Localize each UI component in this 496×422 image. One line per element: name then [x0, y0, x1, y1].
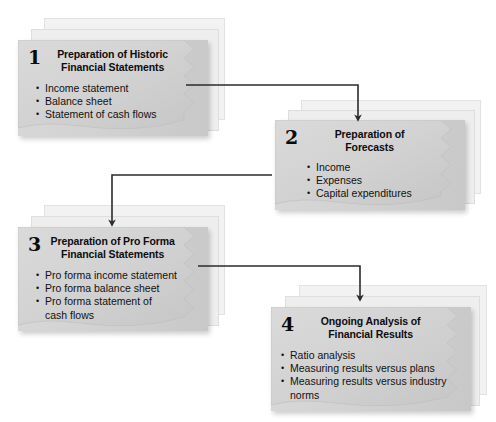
list-item: Ratio analysis [281, 349, 447, 362]
list-item: Income [307, 161, 441, 174]
list-item: Income statement [36, 82, 184, 95]
step-3-content: 3 Preparation of Pro Forma Financial Sta… [28, 235, 184, 331]
step-4-bullet-list: Ratio analysis Measuring results versus … [281, 349, 447, 402]
step-2-content: 2 Preparation of Forecasts Income Expens… [285, 128, 441, 212]
process-flow-diagram: 1 Preparation of Historic Financial Stat… [0, 0, 496, 422]
list-item: Capital expenditures [307, 187, 441, 200]
list-item: Expenses [307, 174, 441, 187]
step-3-title: Preparation of Pro Forma Financial State… [41, 235, 184, 260]
process-step-3: 3 Preparation of Pro Forma Financial Sta… [18, 205, 223, 331]
list-item: Statement of cash flows [36, 108, 184, 121]
process-step-4: 4 Ongoing Analysis of Financial Results … [271, 285, 486, 411]
process-step-1: 1 Preparation of Historic Financial Stat… [18, 18, 223, 136]
step-4-number: 4 [281, 315, 294, 334]
step-4-header: 4 Ongoing Analysis of Financial Results [281, 315, 447, 340]
list-item: Pro forma balance sheet [36, 282, 184, 295]
step-1-content: 1 Preparation of Historic Financial Stat… [28, 48, 184, 136]
step-3-header: 3 Preparation of Pro Forma Financial Sta… [28, 235, 184, 260]
step-1-number: 1 [28, 48, 41, 67]
step-4-content: 4 Ongoing Analysis of Financial Results … [281, 315, 447, 411]
step-2-bullet-list: Income Expenses Capital expenditures [307, 161, 441, 201]
step-2-number: 2 [285, 128, 298, 147]
step-1-header: 1 Preparation of Historic Financial Stat… [28, 48, 184, 73]
step-4-title: Ongoing Analysis of Financial Results [294, 315, 447, 340]
process-step-2: 2 Preparation of Forecasts Income Expens… [275, 100, 480, 212]
list-item: Balance sheet [36, 95, 184, 108]
step-2-header: 2 Preparation of Forecasts [285, 128, 441, 153]
list-item: Measuring results versus plans [281, 362, 447, 375]
step-1-title: Preparation of Historic Financial Statem… [41, 48, 184, 73]
list-item: Pro forma income statement [36, 269, 184, 282]
step-2-title: Preparation of Forecasts [298, 128, 441, 153]
step-1-bullet-list: Income statement Balance sheet Statement… [36, 82, 184, 122]
step-3-number: 3 [28, 235, 41, 254]
list-item: Pro forma statement of cash flows [36, 295, 184, 321]
list-item: Measuring results versus industry norms [281, 375, 447, 401]
step-3-bullet-list: Pro forma income statement Pro forma bal… [36, 269, 184, 322]
